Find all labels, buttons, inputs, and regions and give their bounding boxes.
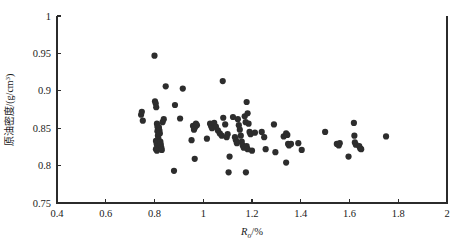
- data-point: [238, 133, 244, 139]
- data-point: [226, 154, 232, 160]
- data-point: [271, 121, 277, 127]
- data-point: [177, 115, 183, 121]
- data-point: [345, 154, 351, 160]
- data-point: [245, 121, 251, 127]
- data-point: [161, 116, 167, 122]
- y-tick-label: 0.85: [33, 123, 51, 134]
- data-point: [220, 78, 226, 84]
- data-point: [263, 146, 269, 152]
- x-tick-label: 0.6: [99, 208, 112, 219]
- data-point: [163, 83, 169, 89]
- data-point: [244, 99, 250, 105]
- data-point: [226, 169, 232, 175]
- data-point: [272, 149, 278, 155]
- data-points-layer: [138, 53, 389, 176]
- data-point: [140, 118, 146, 124]
- data-point: [261, 134, 267, 140]
- data-point: [220, 115, 226, 121]
- y-axis-title-unit-tail: ): [4, 74, 16, 77]
- data-point: [192, 156, 198, 162]
- x-tick-label: 1: [201, 208, 206, 219]
- data-point: [299, 147, 305, 153]
- y-axis-title-cn: 原油密度: [3, 106, 15, 146]
- data-point: [235, 116, 241, 122]
- data-point: [153, 104, 159, 110]
- svg-text:Ro/%: Ro/%: [240, 226, 263, 240]
- data-point: [252, 130, 258, 136]
- x-axis-title: Ro/%: [240, 226, 263, 240]
- x-axis-ticks: 0.40.60.811.21.41.61.82: [50, 199, 449, 219]
- data-point: [284, 132, 290, 138]
- data-point: [295, 140, 301, 146]
- x-tick-label: 0.4: [50, 208, 64, 219]
- scatter-chart: 0.40.60.811.21.41.61.82 0.750.80.850.90.…: [0, 0, 465, 246]
- data-point: [249, 148, 255, 154]
- x-tick-label: 1.2: [245, 208, 258, 219]
- data-point: [204, 136, 210, 142]
- y-tick-label: 0.95: [33, 48, 51, 59]
- data-point: [159, 147, 165, 153]
- axis-lines: [57, 16, 447, 203]
- data-point: [358, 146, 364, 152]
- y-axis-title: 原油密度/(g/cm3): [3, 74, 16, 147]
- data-point: [188, 137, 194, 143]
- data-point: [383, 133, 389, 139]
- data-point: [288, 141, 294, 147]
- y-tick-label: 0.75: [33, 198, 51, 209]
- data-point: [351, 120, 357, 126]
- plot-frame: [57, 16, 447, 203]
- data-point: [171, 168, 177, 174]
- x-tick-label: 2: [444, 208, 449, 219]
- data-point: [322, 129, 328, 135]
- data-point: [157, 130, 163, 136]
- data-point: [237, 127, 243, 133]
- data-point: [337, 140, 343, 146]
- x-axis-title-tail: /%: [251, 226, 263, 237]
- x-tick-label: 1.6: [343, 208, 356, 219]
- data-point: [283, 160, 289, 166]
- x-tick-label: 1.4: [294, 208, 308, 219]
- data-point: [243, 169, 249, 175]
- y-tick-label: 0.8: [38, 160, 51, 171]
- y-axis-title-unit: /(g/cm: [4, 80, 16, 106]
- svg-text:原油密度/(g/cm3): 原油密度/(g/cm3): [3, 74, 16, 147]
- data-point: [139, 109, 145, 115]
- data-point: [194, 122, 200, 128]
- data-point: [351, 133, 357, 139]
- y-tick-label: 0.9: [38, 85, 51, 96]
- data-point: [151, 53, 157, 59]
- data-point: [225, 131, 231, 137]
- y-tick-label: 1: [46, 11, 51, 22]
- x-tick-label: 0.8: [148, 208, 161, 219]
- data-point: [172, 102, 178, 108]
- data-point: [245, 110, 251, 116]
- data-point: [180, 85, 186, 91]
- data-point: [222, 121, 228, 127]
- x-tick-label: 1.8: [392, 208, 405, 219]
